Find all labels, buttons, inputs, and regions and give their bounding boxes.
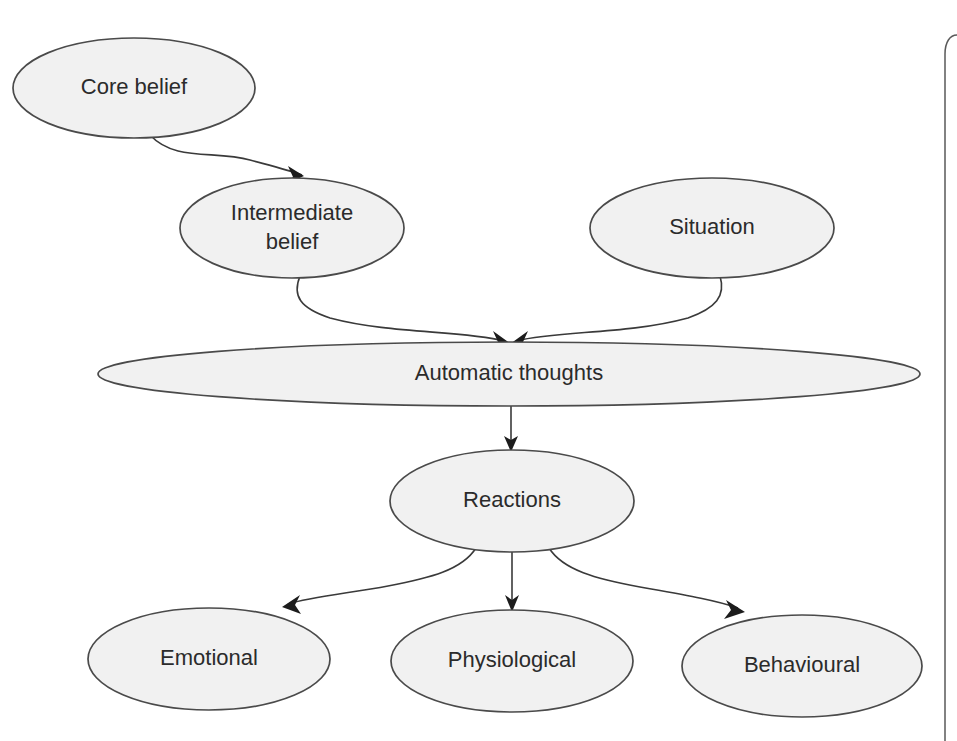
edge-core-to-intermediate-line	[150, 135, 302, 175]
node-reactions-label: Reactions	[463, 487, 561, 512]
node-core-belief[interactable]: Core belief	[13, 38, 255, 138]
node-intermediate-belief-label-line2: belief	[266, 229, 319, 254]
node-emotional-label: Emotional	[160, 645, 258, 670]
edge-reactions-to-emotional	[282, 548, 476, 614]
diagram-canvas: Core belief Intermediate belief Situatio…	[0, 0, 957, 741]
edge-intermediate-to-automatic	[297, 276, 511, 351]
node-behavioural-label: Behavioural	[744, 652, 860, 677]
edge-reactions-to-physiological	[505, 552, 519, 612]
node-emotional[interactable]: Emotional	[88, 608, 330, 710]
arrowhead-icon	[724, 600, 745, 619]
edge-reactions-to-behavioural	[549, 548, 745, 619]
node-reactions[interactable]: Reactions	[390, 450, 634, 552]
edge-situation-to-automatic	[510, 276, 722, 351]
page-border	[945, 35, 957, 741]
node-intermediate-belief[interactable]: Intermediate belief	[180, 178, 404, 278]
node-layer: Core belief Intermediate belief Situatio…	[13, 38, 922, 717]
edge-core-to-intermediate	[150, 135, 304, 184]
node-behavioural[interactable]: Behavioural	[682, 615, 922, 717]
edge-situation-to-automatic-line	[516, 276, 722, 341]
node-automatic-thoughts[interactable]: Automatic thoughts	[98, 342, 920, 406]
node-situation-label: Situation	[669, 214, 755, 239]
node-intermediate-belief-label-line1: Intermediate	[231, 200, 353, 225]
node-situation[interactable]: Situation	[590, 178, 834, 278]
edge-reactions-to-emotional-line	[288, 548, 476, 604]
node-automatic-thoughts-label: Automatic thoughts	[415, 360, 603, 385]
edge-intermediate-to-automatic-line	[297, 276, 505, 341]
node-physiological-label: Physiological	[448, 647, 576, 672]
node-core-belief-label: Core belief	[81, 74, 188, 99]
node-physiological[interactable]: Physiological	[391, 610, 633, 712]
cbt-model-diagram: Core belief Intermediate belief Situatio…	[0, 0, 957, 741]
arrowhead-icon	[282, 595, 301, 614]
edge-reactions-to-behavioural-line	[549, 548, 738, 608]
edge-automatic-to-reactions	[504, 406, 518, 452]
